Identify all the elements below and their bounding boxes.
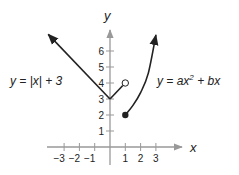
y-axis-label: y <box>103 8 112 23</box>
chart: −3−2−1123123456 x y y = |x| + 3 y = ax2 … <box>0 0 239 175</box>
x-tick-label: 1 <box>123 153 129 164</box>
abs-equation-label: y = |x| + 3 <box>9 74 63 88</box>
abs-right-branch <box>110 86 123 100</box>
quadratic-label-part2: + bx <box>194 74 221 88</box>
x-tick-label: −1 <box>84 153 96 164</box>
quadratic-curve <box>125 35 156 115</box>
y-tick-label: 5 <box>98 62 104 73</box>
quadratic-closed-endpoint <box>122 112 128 118</box>
ticks: −3−2−1123123456 <box>53 46 159 165</box>
x-tick-label: 3 <box>153 153 159 164</box>
x-tick-label: −3 <box>53 153 65 164</box>
quadratic-equation-label: y = ax2 + bx <box>156 73 221 88</box>
y-tick-label: 1 <box>98 126 104 137</box>
quadratic-label-part1: y = ax <box>156 74 190 88</box>
abs-open-endpoint <box>122 80 128 86</box>
x-axis-label: x <box>189 140 197 155</box>
axes <box>47 30 182 165</box>
y-tick-label: 2 <box>98 110 104 121</box>
x-tick-label: −2 <box>69 153 81 164</box>
y-tick-label: 3 <box>98 94 104 105</box>
x-tick-label: 2 <box>138 153 144 164</box>
y-tick-label: 6 <box>98 46 104 57</box>
